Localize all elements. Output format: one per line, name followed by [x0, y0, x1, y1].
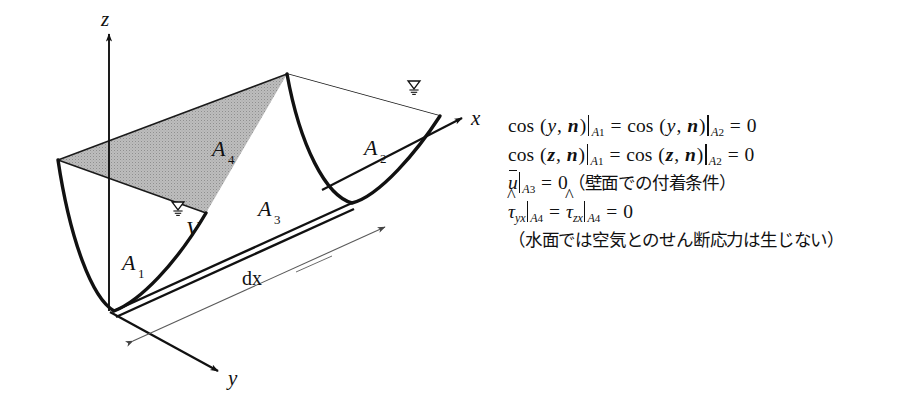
- zero-4: 0: [623, 201, 633, 222]
- sub-A2-b: A2: [709, 154, 722, 168]
- cos-token-1: cos: [508, 115, 534, 136]
- equations-panel: cos (y, n)A1 = cos (y, n)A2 = 0 cos (z, …: [508, 112, 915, 255]
- label-A1-base: A: [120, 250, 136, 275]
- equals-3: =: [608, 144, 621, 165]
- sub-A1-b: A1: [591, 154, 604, 168]
- sub-A1-a: A1: [592, 125, 605, 139]
- equals-2: =: [729, 115, 742, 136]
- comma-3: ,: [555, 144, 562, 165]
- sub-A-4a: A: [530, 211, 537, 225]
- axis-x-label: x: [470, 106, 481, 130]
- cos-token-2: cos: [627, 115, 653, 136]
- note-wall-adhesion: （壁面での付着条件）: [568, 173, 736, 193]
- zero-1: 0: [747, 115, 757, 136]
- comma-4: ,: [673, 144, 680, 165]
- restriction-bar-4: [705, 144, 707, 165]
- sub-A-4b: A: [587, 211, 594, 225]
- vec-n-3: n: [567, 144, 578, 165]
- vec-n-4: n: [685, 144, 696, 165]
- vec-n-2: n: [687, 115, 698, 136]
- note-no-air-shear: （水面では空気とのせん断応力は生じない）: [508, 230, 844, 250]
- label-A2-base: A: [362, 135, 378, 160]
- restriction-bar-5: [519, 172, 521, 193]
- water-level-marker-right: [408, 81, 420, 94]
- label-A4-sub: 4: [228, 152, 235, 167]
- sub-4-b: 4: [595, 212, 601, 224]
- comma-1: ,: [556, 115, 563, 136]
- diagram-svg: z x y: [0, 0, 505, 412]
- equals-5: =: [540, 172, 553, 193]
- sub-A4-a: A4: [530, 211, 543, 225]
- comma-2: ,: [675, 115, 682, 136]
- vec-n-1: n: [568, 115, 579, 136]
- equals-4: =: [727, 144, 740, 165]
- sub-A-1a: A: [592, 125, 599, 139]
- var-z-1: z: [547, 144, 555, 165]
- restriction-bar-7: [584, 201, 586, 222]
- sub-A-1b: A: [591, 154, 598, 168]
- rparen-2: ): [698, 115, 707, 136]
- figure-root: z x y: [0, 0, 915, 412]
- sub-zx: zx: [573, 211, 583, 225]
- sub-A2-a: A2: [711, 125, 724, 139]
- sub-A4-b: A4: [587, 211, 600, 225]
- equation-cos-z-n: cos (z, n)A1 = cos (z, n)A2 = 0: [508, 141, 915, 170]
- label-dx: dx: [242, 267, 262, 289]
- dimension-dx-leader: [296, 256, 332, 272]
- equation-cos-y-n: cos (y, n)A1 = cos (y, n)A2 = 0: [508, 112, 915, 141]
- label-A4-base: A: [210, 136, 226, 161]
- label-V: V: [186, 216, 202, 241]
- label-A1-sub: 1: [138, 266, 145, 281]
- axis-z-label: z: [100, 7, 109, 31]
- sub-3-a: 3: [530, 183, 536, 195]
- tau-hat-zx-symbol: τ: [566, 198, 573, 227]
- sub-2-a: 2: [718, 126, 724, 138]
- sub-yx: yx: [515, 211, 526, 225]
- axis-y-label: y: [226, 366, 238, 390]
- sub-1-b: 1: [598, 155, 604, 167]
- rparen-3: ): [578, 144, 587, 165]
- equals-6: =: [548, 201, 561, 222]
- label-A3-base: A: [256, 196, 272, 221]
- lparen-4: (: [657, 144, 666, 165]
- sub-A-3a: A: [522, 182, 529, 196]
- label-A1: A 1: [120, 250, 145, 281]
- axis-y-line: [110, 312, 218, 371]
- cos-token-3: cos: [508, 144, 534, 165]
- tau-hat-yx-symbol: τ: [508, 198, 515, 227]
- var-y-1: y: [547, 115, 556, 136]
- restriction-bar-3: [587, 144, 589, 165]
- restriction-bar-1: [588, 115, 590, 136]
- label-A2-sub: 2: [380, 151, 387, 166]
- water-level-marker-left: [172, 202, 184, 215]
- control-volume-diagram: z x y: [0, 0, 505, 412]
- cos-token-4: cos: [626, 144, 652, 165]
- rparen-4: ): [696, 144, 705, 165]
- sub-4-a: 4: [538, 212, 544, 224]
- sub-2-b: 2: [716, 155, 722, 167]
- equals-7: =: [605, 201, 618, 222]
- restriction-bar-2: [707, 115, 709, 136]
- zero-2: 0: [745, 144, 755, 165]
- sub-A3-a: A3: [522, 182, 535, 196]
- sub-1-a: 1: [599, 126, 605, 138]
- equation-tau: τyxA4 = τzxA4 = 0: [508, 198, 915, 227]
- restriction-bar-6: [527, 201, 529, 222]
- rparen-1: ): [579, 115, 588, 136]
- equation-note-surface: （水面では空気とのせん断応力は生じない）: [508, 226, 915, 255]
- label-A3-sub: 3: [274, 212, 281, 227]
- equals-1: =: [609, 115, 622, 136]
- lparen-2: (: [658, 115, 667, 136]
